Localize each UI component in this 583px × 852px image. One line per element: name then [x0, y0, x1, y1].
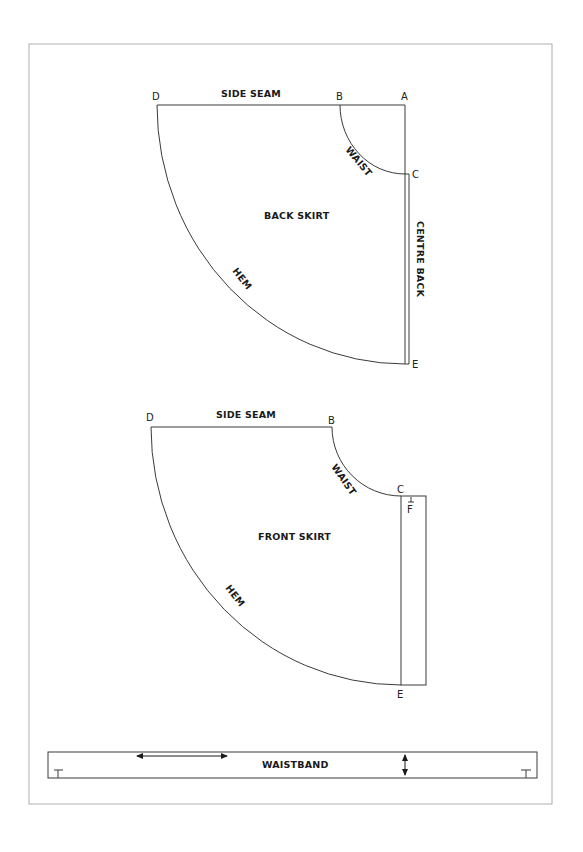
front-point-f: F — [407, 504, 413, 515]
front-waist-label: WAIST — [329, 462, 358, 497]
back-centre-extension — [405, 174, 409, 364]
skirt-pattern-diagram: D B A C E SIDE SEAM WAIST BACK SKIRT HEM… — [0, 0, 583, 852]
front-point-c: C — [397, 484, 404, 495]
waistband-label: WAISTBAND — [262, 759, 329, 770]
centre-back-label: CENTRE BACK — [415, 221, 426, 298]
front-skirt-title: FRONT SKIRT — [258, 531, 331, 542]
back-point-e: E — [412, 359, 418, 370]
back-side-seam-label: SIDE SEAM — [221, 88, 281, 99]
front-skirt-piece: D B C F E SIDE SEAM WAIST FRONT SKIRT HE… — [146, 409, 426, 700]
back-point-c: C — [412, 169, 419, 180]
back-point-d: D — [152, 91, 160, 102]
front-hem-label: HEM — [223, 582, 247, 608]
front-side-seam-label: SIDE SEAM — [216, 409, 276, 420]
front-point-e: E — [397, 689, 403, 700]
back-point-b: B — [336, 91, 343, 102]
back-point-a: A — [401, 91, 408, 102]
back-skirt-piece: D B A C E SIDE SEAM WAIST BACK SKIRT HEM… — [152, 88, 426, 370]
page-frame — [29, 44, 552, 804]
front-point-b: B — [328, 415, 335, 426]
back-hem-label: HEM — [230, 265, 254, 291]
front-hem-curve — [151, 427, 401, 685]
back-waist-label: WAIST — [343, 144, 374, 178]
waistband-piece: WAISTBAND — [48, 752, 537, 778]
front-facing-rect — [401, 496, 426, 685]
front-point-d: D — [146, 412, 154, 423]
back-waist-curve — [340, 105, 405, 174]
back-skirt-title: BACK SKIRT — [264, 210, 330, 221]
back-hem-curve — [157, 105, 405, 364]
